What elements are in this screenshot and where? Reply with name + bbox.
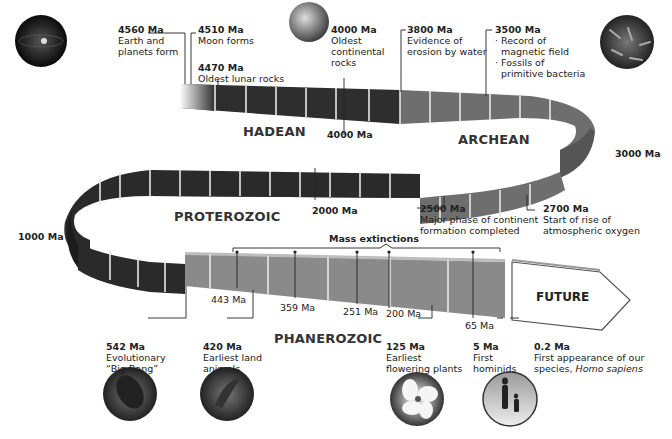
planet-formation-image [15, 15, 67, 67]
hadean-band [180, 84, 400, 124]
extinction-65: 65 Ma [465, 320, 494, 331]
era-label-phanerozoic: PHANEROZOIC [274, 331, 382, 346]
extinction-200: 200 Ma [386, 308, 421, 319]
extinction-251: 251 Ma [343, 306, 378, 317]
tick-1000: 1000 Ma [18, 231, 64, 242]
tick-2000: 2000 Ma [312, 205, 358, 216]
mass-extinctions-label: Mass extinctions [329, 233, 419, 244]
era-label-archean: ARCHEAN [458, 132, 530, 147]
event-0-2: 0.2 MaFirst appearance of ourspecies, Ho… [534, 341, 644, 374]
event-125: 125 MaEarliestflowering plants [386, 341, 462, 374]
flowering-plant-image [390, 372, 444, 426]
event-2700: 2700 MaStart of rise ofatmospheric oxyge… [543, 203, 640, 236]
tick-3000: 3000 Ma [615, 148, 661, 159]
event-2500: 2500 MaMajor phase of continentformation… [420, 203, 538, 236]
trilobite-image [103, 367, 157, 421]
era-label-hadean: HADEAN [243, 124, 306, 139]
event-3800: 3800 MaEvidence oferosion by water [407, 24, 487, 57]
land-animal-image [200, 367, 254, 421]
era-label-proterozoic: PROTEROZOIC [174, 209, 280, 224]
event-3500: 3500 Ma· Record ofmagnetic field· Fossil… [495, 24, 585, 79]
event-4470: 4470 MaOldest lunar rocks [198, 62, 284, 84]
extinction-359: 359 Ma [280, 302, 315, 313]
event-420: 420 MaEarliest landanimals [203, 341, 262, 374]
event-4000: 4000 MaOldestcontinentalrocks [331, 24, 385, 68]
tick-4000: 4000 Ma [327, 129, 373, 140]
continental-rock-image [289, 2, 329, 42]
event-5: 5 MaFirsthominids [473, 341, 516, 374]
event-542: 542 MaEvolutionary“Big Bang” [106, 341, 166, 374]
extinction-443: 443 Ma [211, 294, 246, 305]
event-4560: 4560 MaEarth andplanets form [118, 24, 178, 57]
hominids-image [483, 372, 537, 426]
event-4510: 4510 MaMoon forms [198, 24, 254, 46]
bacteria-fossil-image [600, 15, 654, 69]
era-label-future: FUTURE [536, 290, 589, 304]
